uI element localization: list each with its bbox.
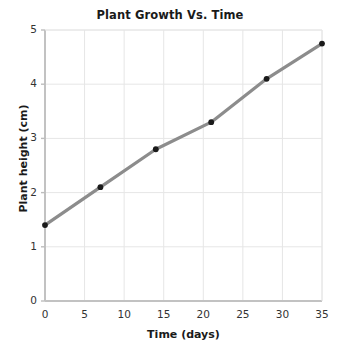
plot-area bbox=[0, 0, 340, 350]
data-point-marker bbox=[264, 76, 270, 82]
x-tick-label: 20 bbox=[188, 308, 218, 320]
data-point-marker bbox=[208, 119, 214, 125]
x-tick-label: 35 bbox=[307, 308, 337, 320]
y-tick-label: 1 bbox=[7, 240, 37, 252]
data-point-marker bbox=[98, 184, 104, 190]
x-tick-label: 0 bbox=[30, 308, 60, 320]
x-tick-label: 5 bbox=[70, 308, 100, 320]
y-tick-label: 4 bbox=[7, 77, 37, 89]
y-tick-label: 5 bbox=[7, 23, 37, 35]
y-tick-label: 0 bbox=[7, 294, 37, 306]
data-series-line bbox=[45, 44, 322, 226]
series-line-plant-height bbox=[45, 44, 322, 226]
data-point-marker bbox=[319, 41, 325, 47]
y-tick-label: 3 bbox=[7, 131, 37, 143]
y-tick-label: 2 bbox=[7, 186, 37, 198]
x-tick-label: 30 bbox=[267, 308, 297, 320]
chart-container: Plant Growth Vs. Time Plant height (cm) … bbox=[0, 0, 340, 350]
x-tick-label: 25 bbox=[228, 308, 258, 320]
x-tick-label: 10 bbox=[109, 308, 139, 320]
data-point-marker bbox=[42, 222, 48, 228]
x-tick-label: 15 bbox=[149, 308, 179, 320]
data-point-marker bbox=[153, 146, 159, 152]
